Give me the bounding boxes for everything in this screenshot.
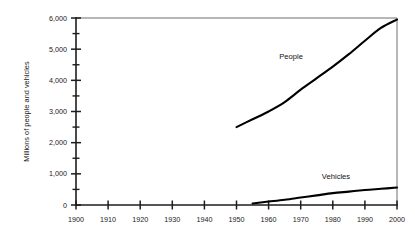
y-tick-label: 2,000	[49, 138, 67, 147]
x-axis-tick-labels: 1900191019201930194019501960197019801990…	[68, 215, 405, 224]
y-tick-label: 6,000	[49, 14, 67, 23]
x-tick-label: 1930	[164, 215, 180, 224]
y-axis-tick-labels: 01,0002,0003,0004,0005,0006,000	[49, 14, 67, 210]
y-axis-title: Millions of people and vehicles	[22, 61, 31, 162]
chart-container: 01,0002,0003,0004,0005,0006,000 19001910…	[0, 0, 415, 247]
x-tick-label: 1940	[196, 215, 212, 224]
line-chart: 01,0002,0003,0004,0005,0006,000 19001910…	[0, 0, 415, 247]
series-label-people: People	[279, 52, 303, 61]
data-series-group	[237, 20, 398, 204]
x-tick-label: 1970	[293, 215, 309, 224]
series-annotations-group: PeopleVehicles	[279, 52, 350, 182]
x-axis: 1900191019201930194019501960197019801990…	[68, 201, 405, 225]
y-tick-label: 1,000	[49, 169, 67, 178]
x-tick-label: 1990	[357, 215, 373, 224]
x-tick-label: 1960	[261, 215, 277, 224]
series-line-people	[237, 20, 398, 128]
x-tick-label: 1920	[132, 215, 148, 224]
y-tick-label: 4,000	[49, 76, 67, 85]
x-tick-label: 1900	[68, 215, 84, 224]
series-line-vehicles	[253, 188, 397, 204]
y-tick-label: 5,000	[49, 45, 67, 54]
x-tick-label: 1950	[229, 215, 245, 224]
series-label-vehicles: Vehicles	[322, 172, 350, 181]
x-tick-label: 1980	[325, 215, 341, 224]
y-tick-label: 0	[63, 201, 67, 210]
y-tick-label: 3,000	[49, 107, 67, 116]
x-tick-label: 1910	[100, 215, 116, 224]
x-tick-label: 2000	[389, 215, 405, 224]
y-axis: 01,0002,0003,0004,0005,0006,000	[49, 14, 81, 210]
